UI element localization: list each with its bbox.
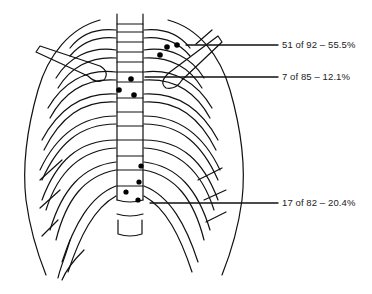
annotation-manubrium: 7 of 85 – 12.1% xyxy=(282,71,350,82)
right-ribs xyxy=(144,30,226,272)
sternum xyxy=(117,14,143,236)
outer-contour xyxy=(25,20,244,275)
lesion-dots xyxy=(116,42,180,202)
left-ribs xyxy=(40,30,116,280)
annotation-lower-sternum: 17 of 82 – 20.4% xyxy=(282,197,355,208)
leader-lines xyxy=(145,45,278,203)
annotation-clavicle: 51 of 92 – 55.5% xyxy=(282,39,355,50)
